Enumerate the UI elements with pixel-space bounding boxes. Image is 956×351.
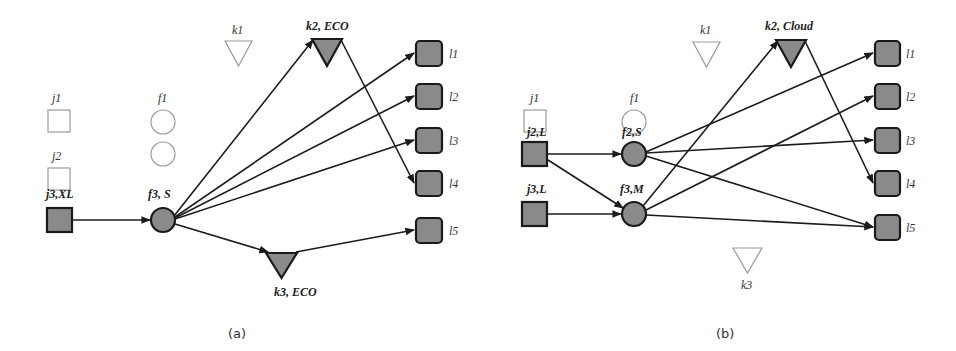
node-l1 <box>416 41 442 66</box>
node-k1 <box>693 42 720 67</box>
label-l1: l1 <box>906 47 915 61</box>
node-l2 <box>875 84 900 109</box>
label-k3: k3, ECO <box>274 285 317 299</box>
node-k3 <box>733 248 762 273</box>
node-l3 <box>875 128 900 153</box>
label-k1: k1 <box>232 23 243 37</box>
node-l3 <box>416 128 442 153</box>
node-l5 <box>875 215 900 240</box>
node-k2 <box>776 40 806 67</box>
label-f1: f1 <box>158 91 167 105</box>
label-l2: l2 <box>449 90 458 104</box>
label-l4: l4 <box>906 177 915 191</box>
node-f2 <box>151 142 175 166</box>
label-l2: l2 <box>906 90 915 104</box>
label-l3: l3 <box>906 134 915 148</box>
node-k2 <box>312 39 342 66</box>
panel-b: j1 j2,L j3,L f1 f2,S f3,M k1 k2, Cloud k… <box>522 19 915 341</box>
node-l4 <box>416 171 442 196</box>
node-l2 <box>416 84 442 109</box>
label-l5: l5 <box>906 221 915 235</box>
label-f3: f3,M <box>620 182 644 196</box>
edge-k2-l4 <box>805 41 873 183</box>
label-l3: l3 <box>449 134 458 148</box>
node-j3 <box>522 202 547 226</box>
node-l4 <box>875 171 900 196</box>
node-j1 <box>48 110 70 132</box>
node-k3 <box>266 253 297 278</box>
edge-f3-l1 <box>175 53 414 217</box>
panel-a-edges <box>72 40 414 252</box>
edge-f3-k2 <box>643 41 778 206</box>
node-l5 <box>416 218 442 243</box>
label-f1: f1 <box>630 91 639 105</box>
label-k1: k1 <box>700 23 711 37</box>
node-f3 <box>151 208 175 232</box>
node-k1 <box>225 41 252 66</box>
label-j2: j2,L <box>525 125 547 139</box>
label-k2: k2, Cloud <box>765 19 814 33</box>
label-j2: j2 <box>50 149 61 163</box>
node-j2 <box>522 142 547 166</box>
edge-f3-k2 <box>174 40 313 216</box>
label-l1: l1 <box>449 47 458 61</box>
node-f2 <box>622 142 646 166</box>
label-f3: f3, S <box>148 187 171 201</box>
label-f2: f2,S <box>622 125 642 139</box>
edge-j2-f3 <box>548 160 623 208</box>
label-j1: j1 <box>528 91 539 105</box>
label-j3: j3,XL <box>44 187 74 201</box>
node-l1 <box>875 41 900 66</box>
edge-f2-l1 <box>646 53 873 152</box>
edge-f3-l3 <box>175 140 414 219</box>
caption-a: (a) <box>228 326 246 341</box>
label-j3: j3,L <box>525 182 547 196</box>
label-k2: k2, ECO <box>306 19 349 33</box>
node-f3 <box>622 202 646 226</box>
panel-b-edges <box>548 41 873 227</box>
panel-a: j1 j2 j3,XL f1 f2 f3, S k1 k2, ECO k3, E… <box>44 19 458 341</box>
node-j3 <box>47 208 72 232</box>
diagram-canvas: j1 j2 j3,XL f1 f2 f3, S k1 k2, ECO k3, E… <box>0 0 956 351</box>
label-j1: j1 <box>50 91 61 105</box>
edge-k3-l5 <box>296 230 414 252</box>
edge-f2-l3 <box>646 140 873 153</box>
label-l5: l5 <box>449 224 458 238</box>
caption-b: (b) <box>716 326 734 341</box>
node-f1 <box>151 110 175 134</box>
label-k3: k3 <box>741 278 752 292</box>
edge-f3-k3 <box>175 224 268 252</box>
label-l4: l4 <box>449 177 458 191</box>
